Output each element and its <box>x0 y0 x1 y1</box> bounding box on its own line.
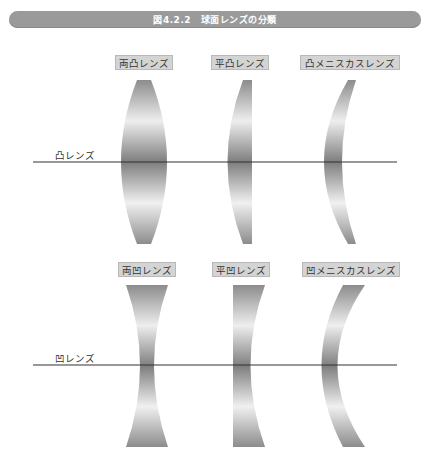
plano-concave-lens-shape <box>233 285 265 447</box>
concave-meniscus-lens-shape <box>322 285 366 447</box>
lens-diagram <box>0 0 428 467</box>
biconcave-lens-shape <box>126 285 168 447</box>
